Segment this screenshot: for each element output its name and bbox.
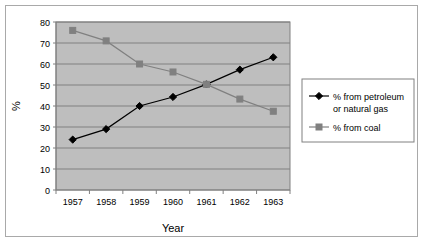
legend-label: % from coal	[333, 123, 381, 133]
y-tick-label: 30	[40, 123, 50, 133]
y-tick-label: 10	[40, 165, 50, 175]
y-tick-label: 0	[45, 186, 50, 196]
y-tick-label: 70	[40, 39, 50, 49]
x-tick-label: 1962	[230, 197, 250, 207]
x-tick-label: 1961	[196, 197, 216, 207]
legend-label-line2: or natural gas	[333, 104, 389, 114]
y-tick-label: 80	[40, 18, 50, 28]
data-point	[270, 108, 276, 114]
x-tick-label: 1960	[163, 197, 183, 207]
x-axis-title: Year	[162, 222, 185, 234]
y-tick-label: 60	[40, 60, 50, 70]
x-tick-label: 1963	[263, 197, 283, 207]
data-point	[70, 27, 76, 33]
line-chart: 01020304050607080 1957195819591960196119…	[0, 0, 424, 244]
x-tick-label: 1959	[130, 197, 150, 207]
data-point	[103, 38, 109, 44]
data-point	[237, 96, 243, 102]
data-point	[137, 61, 143, 67]
y-axis-tick-labels: 01020304050607080	[40, 18, 50, 196]
x-tick-label: 1957	[63, 197, 83, 207]
chart-canvas: 01020304050607080 1957195819591960196119…	[0, 0, 424, 244]
x-axis-ticks	[56, 190, 290, 194]
y-axis-title: %	[10, 101, 22, 111]
y-tick-label: 50	[40, 81, 50, 91]
data-point	[170, 69, 176, 75]
legend-marker-square	[316, 124, 322, 130]
legend-label: % from petroleum	[333, 92, 404, 102]
x-tick-label: 1958	[96, 197, 116, 207]
y-tick-label: 20	[40, 144, 50, 154]
x-axis-tick-labels: 1957195819591960196119621963	[63, 197, 284, 207]
y-tick-label: 40	[40, 102, 50, 112]
data-point	[203, 81, 209, 87]
legend: % from petroleumor natural gas% from coa…	[302, 79, 414, 142]
